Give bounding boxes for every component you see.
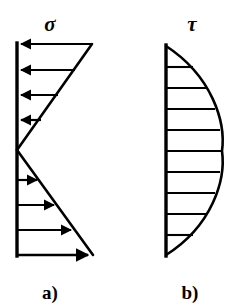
tau-symbol-label: τ [172, 14, 212, 35]
panel-b-caption: b) [168, 283, 212, 302]
panel-a-normal-stress [17, 43, 93, 256]
sigma-symbol-label: σ [30, 14, 70, 35]
panel-a-upper-stress-envelope [17, 44, 92, 150]
stress-distribution-figure: σ τ a) b) [0, 0, 233, 307]
panel-a-lower-stress-envelope [17, 150, 93, 255]
panel-b-shear-stress [166, 45, 223, 256]
figure-canvas [0, 0, 233, 307]
panel-a-caption: a) [28, 283, 72, 302]
